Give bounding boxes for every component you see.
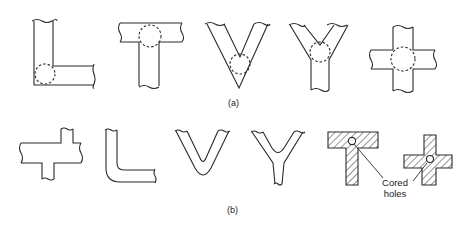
a-v-junction: [205, 23, 270, 89]
a-t-junction: [119, 23, 184, 89]
a-l-junction: [32, 20, 95, 89]
row-a-label: (a): [228, 98, 239, 108]
b-rounded-v: [175, 130, 230, 175]
row-b-label: (b): [227, 205, 238, 215]
a-y-junction: [289, 24, 348, 92]
b-hatched-t-cored: [328, 132, 378, 185]
b-rounded-l: [105, 129, 156, 183]
a-cross-junction: [370, 26, 437, 93]
b-staggered-cross: [20, 128, 83, 180]
cored-holes-annotation: Cored holes: [378, 177, 412, 199]
b-rounded-y: [251, 131, 305, 185]
